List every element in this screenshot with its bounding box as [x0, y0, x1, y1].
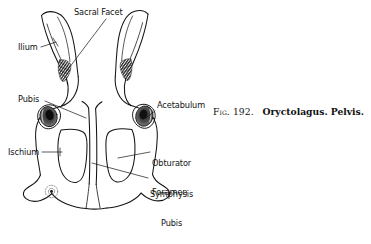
left-obturator-foramen [58, 129, 87, 182]
leader-ilium [41, 42, 56, 47]
caption-spacer [257, 106, 260, 117]
leader-obturator-foramen [118, 152, 150, 158]
label-obturator-foramen-line1: Obturator [152, 159, 191, 169]
left-ilium-lateral-inner-line [58, 17, 71, 62]
figure-number: Fig. 192. [213, 106, 254, 117]
leader-sacral-facet [66, 19, 106, 72]
left-nutrient-foramen-stipple [45, 185, 57, 197]
symphysis-left-edge [89, 108, 90, 184]
figure-caption: Fig. 192. Oryctolagus. Pelvis. [213, 106, 371, 118]
label-symphysis-pubis: Symphysis Pubis [150, 171, 193, 244]
leader-symphysis-pubis [92, 163, 148, 178]
label-acetabulum: Acetabulum [157, 101, 205, 111]
left-ischial-lower-margin [52, 194, 86, 209]
label-ischium: Ischium [8, 148, 39, 158]
caudal-median-ridge-left [86, 184, 89, 209]
left-ilium-shaft-medial [62, 79, 69, 106]
caudal-median-ridge-right [96, 185, 100, 209]
label-pubis: Pubis [18, 95, 39, 105]
right-ilium-shaft-medial [124, 79, 130, 106]
left-ischial-tuberosity [23, 175, 51, 201]
left-sacral-facet-shading [58, 60, 71, 82]
right-sacral-facet-shading [120, 59, 132, 81]
pubic-cranial-junction [82, 102, 102, 109]
label-sacral-facet: Sacral Facet [74, 8, 123, 18]
figure-container: Sacral Facet Ilium Pubis Acetabulum Isch… [0, 0, 371, 244]
ischial-arch-median [86, 208, 107, 209]
figure-title: Oryctolagus. Pelvis. [263, 106, 364, 117]
bone-outline-group [23, 11, 169, 209]
symphysis-right-edge [96, 109, 97, 185]
label-symphysis-pubis-line2: Pubis [150, 219, 193, 229]
label-symphysis-pubis-line1: Symphysis [150, 190, 193, 200]
label-ilium: Ilium [18, 43, 38, 53]
right-ischial-lower-margin [107, 193, 141, 208]
leader-ilium-tick [53, 38, 58, 46]
